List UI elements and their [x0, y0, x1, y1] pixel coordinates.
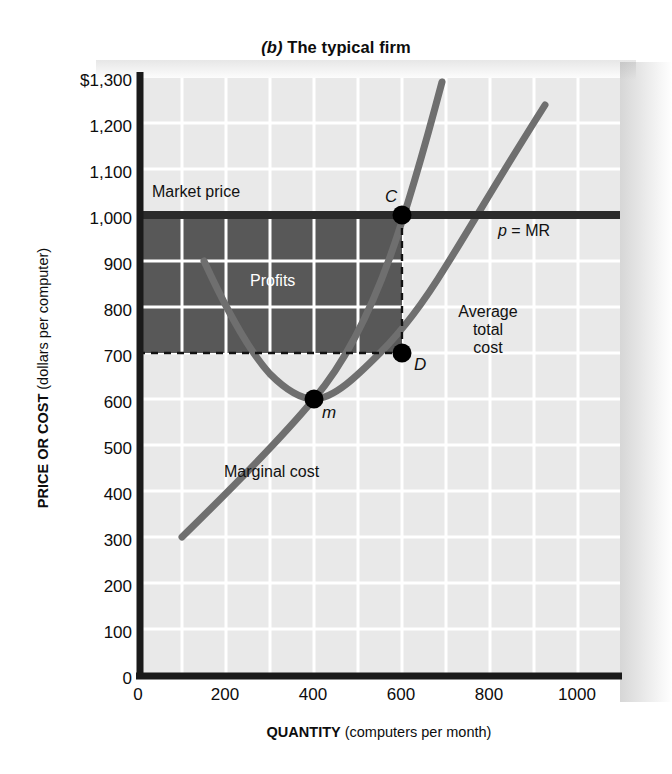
point-m-label: m — [322, 403, 336, 422]
p-symbol: p — [498, 222, 507, 239]
p-equals-mr-label: p = MR — [498, 222, 550, 240]
chart-plot-area — [0, 0, 672, 774]
average-total-cost-label: Average total cost — [436, 303, 540, 357]
point-d-marker — [393, 344, 412, 363]
point-c-label: C — [385, 187, 397, 206]
mr-text: = MR — [507, 222, 550, 239]
point-c-marker — [393, 206, 412, 225]
market-price-label: Market price — [152, 183, 240, 201]
point-d-label: D — [414, 355, 426, 374]
marginal-cost-label: Marginal cost — [224, 463, 319, 481]
profits-label: Profits — [250, 272, 295, 290]
figure-panel: (b) The typical firm PRICE OR COST (doll… — [0, 0, 672, 774]
point-m-marker — [305, 390, 324, 409]
